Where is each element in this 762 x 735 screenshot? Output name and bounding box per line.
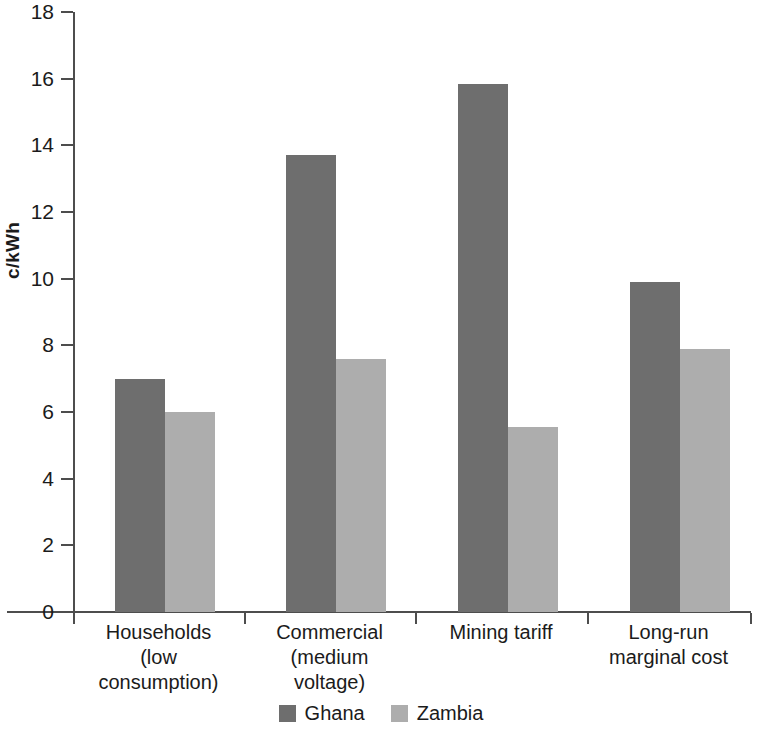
legend-item-zambia: Zambia — [391, 703, 484, 723]
bar-zambia-2 — [508, 427, 558, 612]
legend-swatch-ghana — [279, 705, 296, 722]
x-axis-label-3: Long-runmarginal cost — [587, 620, 750, 670]
legend-label-ghana: Ghana — [305, 703, 365, 723]
chart-legend: GhanaZambia — [0, 703, 762, 723]
x-axis-label-line: Households — [73, 620, 244, 645]
bar-zambia-0 — [165, 412, 215, 612]
bar-chart: c/kWh 181614121086420 Households(lowcons… — [0, 0, 762, 735]
x-axis-label-line: Long-run — [587, 620, 750, 645]
bar-ghana-2 — [458, 84, 508, 612]
x-axis-category-labels: Households(lowconsumption)Commercial(med… — [0, 620, 762, 700]
legend-swatch-zambia — [391, 705, 408, 722]
bar-zambia-3 — [680, 349, 730, 612]
bar-zambia-1 — [336, 359, 386, 612]
x-axis-label-line: consumption) — [73, 670, 244, 695]
x-axis-label-line: (medium — [244, 645, 415, 670]
bar-ghana-0 — [115, 379, 165, 612]
bars-layer — [0, 12, 762, 612]
x-axis-label-line: (low — [73, 645, 244, 670]
legend-item-ghana: Ghana — [279, 703, 365, 723]
x-axis-label-line: Commercial — [244, 620, 415, 645]
x-axis-label-line: marginal cost — [587, 645, 750, 670]
x-axis-label-1: Commercial(mediumvoltage) — [244, 620, 415, 695]
x-axis-label-2: Mining tariff — [415, 620, 587, 645]
legend-label-zambia: Zambia — [417, 703, 484, 723]
bar-ghana-3 — [630, 282, 680, 612]
x-axis-label-line: voltage) — [244, 670, 415, 695]
x-axis-label-0: Households(lowconsumption) — [73, 620, 244, 695]
bar-ghana-1 — [286, 155, 336, 612]
x-axis-label-line: Mining tariff — [415, 620, 587, 645]
